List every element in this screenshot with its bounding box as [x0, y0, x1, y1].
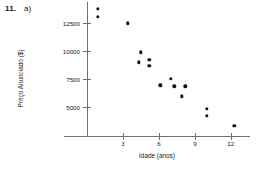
scatter-plot: 500075001000012500 36912 Preço Anunciado…: [0, 0, 256, 173]
data-point: [158, 83, 161, 86]
data-point: [139, 51, 142, 54]
data-point: [96, 15, 99, 18]
y-tick-label: 12500: [63, 20, 80, 27]
data-point: [96, 7, 99, 10]
x-tick-label: 9: [193, 140, 196, 147]
figure-root: 11. a) 500075001000012500 36912 Preço An…: [0, 0, 256, 173]
x-tick-label: 6: [157, 140, 160, 147]
y-axis-line: [87, 2, 88, 136]
x-tick: [123, 133, 124, 140]
data-point: [169, 77, 172, 80]
x-axis-line: [64, 136, 250, 137]
data-point: [126, 22, 129, 25]
y-tick: [83, 79, 91, 80]
y-axis-title: Preço Anunciado ($): [17, 41, 24, 117]
y-tick: [83, 23, 91, 24]
x-tick-label: 3: [121, 140, 124, 147]
y-tick-label: 10000: [63, 48, 80, 55]
data-point: [180, 95, 183, 98]
y-tick: [83, 51, 91, 52]
y-tick-label: 7500: [66, 76, 80, 83]
data-point: [173, 85, 176, 88]
x-tick: [231, 133, 232, 140]
data-point: [184, 85, 187, 88]
y-tick-label: 5000: [66, 103, 80, 110]
x-tick: [195, 133, 196, 140]
x-tick: [159, 133, 160, 140]
y-tick: [83, 107, 91, 108]
data-point: [205, 114, 208, 117]
data-point: [205, 107, 208, 110]
x-axis-title: Idade (anos): [139, 152, 175, 159]
data-point: [148, 64, 151, 67]
data-point: [137, 61, 140, 64]
data-point: [233, 124, 236, 127]
x-tick-label: 12: [227, 140, 234, 147]
data-point: [148, 58, 151, 61]
